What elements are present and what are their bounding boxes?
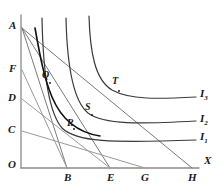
- budget-line-FB: [22, 70, 67, 168]
- point-label-T: T: [112, 76, 118, 86]
- indifference-curve-figure: A F D C O B E G H X Q R S T I3 I2 I1: [0, 0, 221, 192]
- point-label-S: S: [85, 102, 91, 112]
- curve-label-I2: I2: [200, 113, 208, 127]
- point-marker-Q: [49, 82, 51, 84]
- point-label-R: R: [67, 118, 74, 128]
- point-marker-R: [73, 128, 75, 130]
- figure-canvas: [0, 0, 221, 192]
- budget-line-CG: [22, 131, 145, 168]
- curve-label-I1-subscript: 1: [204, 137, 208, 145]
- indifference-curve-I3: [89, 16, 196, 98]
- axis-label-C: C: [8, 124, 15, 135]
- axis-label-F: F: [9, 63, 16, 74]
- curve-label-I2-subscript: 2: [204, 119, 208, 127]
- axis-label-H: H: [188, 172, 197, 183]
- budget-line-AB: [22, 28, 67, 168]
- axis-label-G: G: [141, 172, 149, 183]
- axis-label-X: X: [204, 155, 211, 166]
- axis-label-A: A: [9, 20, 16, 31]
- axis-label-B: B: [64, 172, 71, 183]
- point-marker-S: [91, 114, 93, 116]
- point-label-Q: Q: [42, 70, 49, 80]
- indifference-curve-I1: [42, 18, 196, 141]
- curve-label-I1: I1: [200, 131, 208, 145]
- point-marker-T: [118, 90, 120, 92]
- curve-label-I3-subscript: 3: [204, 94, 208, 102]
- curve-label-I3: I3: [200, 88, 208, 102]
- budget-line-DE: [22, 99, 110, 168]
- axis-label-D: D: [8, 92, 16, 103]
- axis-label-E: E: [107, 172, 114, 183]
- axis-label-O: O: [8, 159, 16, 170]
